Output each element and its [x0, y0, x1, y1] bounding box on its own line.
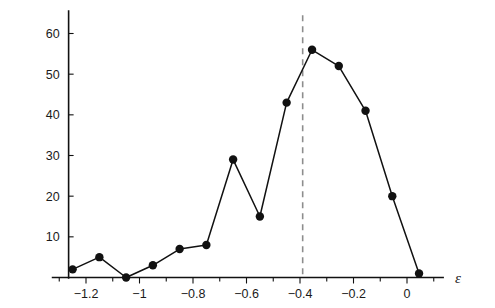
x-axis-title: ε	[455, 270, 461, 286]
y-tick-label-30: 30	[46, 149, 60, 163]
data-point	[202, 241, 210, 249]
data-point	[95, 253, 103, 261]
chart-figure: 102030405060 −1.2−1−0.8−0.6−0.4−0.20 ε	[0, 0, 495, 308]
x-axis-ticks	[59, 278, 434, 284]
x-tick-label--0.8: −0.8	[181, 287, 206, 301]
y-tick-label-50: 50	[46, 68, 60, 82]
data-point	[282, 98, 290, 106]
x-tick-label--0.6: −0.6	[234, 287, 259, 301]
x-tick-label-0: 0	[404, 287, 411, 301]
data-point	[175, 245, 183, 253]
y-axis-tick-labels: 102030405060	[46, 27, 60, 244]
y-tick-label-10: 10	[46, 230, 60, 244]
data-point	[415, 269, 423, 277]
y-tick-label-60: 60	[46, 27, 60, 41]
series-markers-counts	[68, 46, 423, 282]
axes-group	[53, 11, 444, 278]
data-point	[68, 265, 76, 273]
data-point	[388, 192, 396, 200]
y-tick-label-40: 40	[46, 108, 60, 122]
data-point	[149, 261, 157, 269]
x-tick-label--1: −1	[132, 287, 146, 301]
data-point	[229, 155, 237, 163]
data-point	[122, 273, 130, 281]
x-tick-label--0.2: −0.2	[341, 287, 366, 301]
data-point	[308, 46, 316, 54]
series-line-counts	[73, 50, 419, 278]
y-tick-label-20: 20	[46, 190, 60, 204]
data-point	[256, 212, 264, 220]
data-point	[335, 62, 343, 70]
data-point	[361, 107, 369, 115]
x-axis-tick-labels: −1.2−1−0.8−0.6−0.4−0.20	[74, 287, 411, 301]
x-tick-label--1.2: −1.2	[74, 287, 99, 301]
x-tick-label--0.4: −0.4	[288, 287, 313, 301]
line-chart-canvas: 102030405060 −1.2−1−0.8−0.6−0.4−0.20 ε	[0, 0, 495, 308]
